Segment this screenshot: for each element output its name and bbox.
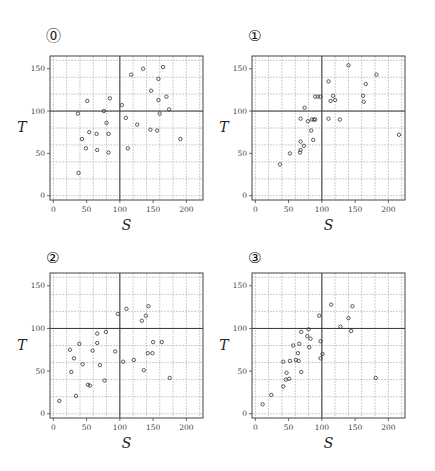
y-tick-label: 100 bbox=[31, 107, 46, 116]
y-tick-label: 150 bbox=[31, 64, 46, 73]
data-point-marker bbox=[397, 133, 400, 136]
data-point-marker bbox=[140, 319, 143, 322]
x-tick-label: 150 bbox=[348, 423, 363, 432]
data-point-marker bbox=[317, 314, 320, 317]
grid bbox=[252, 273, 405, 418]
data-point-marker bbox=[282, 385, 285, 388]
x-tick-label: 0 bbox=[253, 423, 258, 432]
data-point-marker bbox=[76, 112, 79, 115]
grid bbox=[50, 273, 203, 418]
data-point-marker bbox=[91, 349, 94, 352]
x-tick-label: 0 bbox=[51, 423, 56, 432]
scatter-plot: 050100150200050100150ST bbox=[0, 236, 217, 471]
data-point-marker bbox=[329, 303, 332, 306]
data-point-marker bbox=[78, 342, 81, 345]
x-tick-label: 200 bbox=[381, 423, 396, 432]
x-axis-title: S bbox=[122, 217, 132, 233]
data-point-marker bbox=[120, 103, 123, 106]
data-point-marker bbox=[126, 147, 129, 150]
x-tick-label: 100 bbox=[113, 423, 128, 432]
y-axis-title: T bbox=[17, 337, 28, 353]
data-point-marker bbox=[96, 332, 99, 335]
x-tick-label: 50 bbox=[82, 423, 92, 432]
data-point-marker bbox=[309, 337, 312, 340]
data-point-marker bbox=[68, 348, 71, 351]
data-point-marker bbox=[303, 106, 306, 109]
data-point-marker bbox=[132, 358, 135, 361]
data-point-marker bbox=[95, 132, 98, 135]
data-point-marker bbox=[88, 131, 91, 134]
data-point-marker bbox=[300, 330, 303, 333]
data-point-marker bbox=[338, 118, 341, 121]
grid bbox=[50, 56, 203, 200]
x-tick-label: 50 bbox=[82, 205, 92, 214]
y-axis-title: T bbox=[17, 119, 28, 135]
data-point-marker bbox=[168, 376, 171, 379]
y-tick-label: 0 bbox=[242, 409, 247, 418]
data-point-marker bbox=[374, 376, 377, 379]
data-point-marker bbox=[98, 363, 101, 366]
y-tick-label: 150 bbox=[31, 281, 46, 290]
data-points bbox=[76, 65, 182, 174]
data-point-marker bbox=[151, 340, 154, 343]
y-axis-title: T bbox=[219, 337, 230, 353]
data-point-marker bbox=[147, 305, 150, 308]
data-point-marker bbox=[113, 350, 116, 353]
x-tick-label: 100 bbox=[315, 205, 330, 214]
data-point-marker bbox=[84, 147, 87, 150]
data-point-marker bbox=[327, 80, 330, 83]
data-point-marker bbox=[80, 137, 83, 140]
data-point-marker bbox=[70, 370, 73, 373]
data-point-marker bbox=[81, 363, 84, 366]
data-points bbox=[58, 305, 172, 403]
scatter-panel-1: ① 050100150200050100150ST bbox=[218, 0, 435, 235]
x-tick-label: 100 bbox=[113, 205, 128, 214]
scatter-panel-3: ③ 050100150200050100150ST bbox=[218, 236, 435, 471]
data-point-marker bbox=[116, 312, 119, 315]
y-tick-label: 0 bbox=[242, 191, 247, 200]
data-point-marker bbox=[108, 97, 111, 100]
data-point-marker bbox=[96, 341, 99, 344]
x-tick-label: 50 bbox=[284, 205, 294, 214]
data-point-marker bbox=[308, 346, 311, 349]
y-tick-label: 100 bbox=[233, 324, 248, 333]
x-tick-label: 150 bbox=[146, 205, 161, 214]
y-tick-label: 100 bbox=[31, 324, 46, 333]
data-point-marker bbox=[107, 151, 110, 154]
y-tick-label: 50 bbox=[35, 149, 45, 158]
data-point-marker bbox=[299, 140, 302, 143]
data-point-marker bbox=[165, 95, 168, 98]
scatter-panel-0: ⓪ 050100150200050100150ST bbox=[0, 0, 217, 235]
data-point-marker bbox=[299, 117, 302, 120]
x-tick-label: 50 bbox=[284, 423, 294, 432]
data-point-marker bbox=[331, 94, 334, 97]
x-tick-label: 200 bbox=[179, 205, 194, 214]
data-point-marker bbox=[329, 99, 332, 102]
data-point-marker bbox=[261, 403, 264, 406]
y-tick-label: 50 bbox=[237, 149, 247, 158]
data-point-marker bbox=[149, 89, 152, 92]
data-point-marker bbox=[167, 108, 170, 111]
data-point-marker bbox=[107, 132, 110, 135]
y-tick-label: 0 bbox=[40, 409, 45, 418]
data-point-marker bbox=[146, 351, 149, 354]
data-point-marker bbox=[364, 82, 367, 85]
data-point-marker bbox=[144, 314, 147, 317]
x-tick-label: 150 bbox=[348, 205, 363, 214]
x-axis-title: S bbox=[324, 217, 334, 233]
data-points bbox=[278, 64, 400, 167]
data-point-marker bbox=[151, 351, 154, 354]
y-tick-label: 0 bbox=[40, 191, 45, 200]
data-point-marker bbox=[321, 352, 324, 355]
y-tick-label: 50 bbox=[35, 367, 45, 376]
x-axis-title: S bbox=[324, 435, 334, 451]
data-point-marker bbox=[278, 163, 281, 166]
data-point-marker bbox=[58, 399, 61, 402]
data-point-marker bbox=[124, 116, 127, 119]
data-point-marker bbox=[129, 73, 132, 76]
data-point-marker bbox=[77, 171, 80, 174]
data-points bbox=[261, 303, 377, 406]
data-point-marker bbox=[141, 67, 144, 70]
y-tick-label: 150 bbox=[233, 64, 248, 73]
data-point-marker bbox=[310, 129, 313, 132]
